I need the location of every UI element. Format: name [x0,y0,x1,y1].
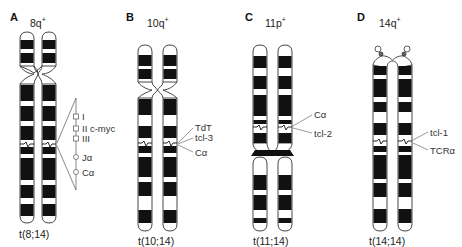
chromosome-d [373,46,428,231]
gene-label-a-4: Jα [82,153,92,163]
chromatid-b-left-lower [138,98,152,231]
leader-lines-c [293,115,312,133]
chromatid-d-right [398,65,412,231]
chromosome-title-b: 10q+ [147,16,169,28]
chromosome-title-c: 11p+ [265,16,286,28]
gene-label-c-1: Cα [314,110,326,120]
chromosome-title-sup: + [42,16,46,23]
gene-map-expansion [57,98,79,190]
chromatid-a-right-upper [42,32,56,66]
translocation-caption-a: t(8;14) [19,229,49,240]
chromosome-title-sup: + [165,16,169,23]
gene-label-a-5: Cα [82,168,94,178]
centromere-c [251,150,294,156]
chromatid-b-right-upper [163,45,177,82]
chromatid-d-left [373,65,387,231]
chromosome-b [138,45,193,231]
chromatid-b-left-upper [138,45,152,82]
gene-label-a-1: I [82,112,85,122]
gene-label-b-2: tcl-3 [195,133,213,143]
gene-label-b-3: Cα [195,148,207,158]
chromosome-title-text: 10q [147,17,165,29]
chromosome-title-text: 8q [30,17,42,29]
leader-lines-d [413,132,428,150]
satellites-d [375,46,410,56]
chromatid-a-right-lower [42,84,56,223]
panel-label-d: D [357,12,365,23]
chromatid-b-right-lower [163,98,177,231]
gene-label-d-2: TCRα [430,146,455,156]
chromatid-c-upper [253,45,292,153]
panel-label-a: A [10,12,18,23]
chromatid-a-left-lower [20,84,34,223]
chromosome-title-a: 8q+ [30,16,46,28]
chromosome-title-text: 11p [265,17,282,29]
gene-label-a-3: III [82,134,90,144]
panel-label-c: C [245,12,253,23]
chromosome-title-text: 14q [379,17,397,29]
gene-label-c-2: tcl-2 [314,129,332,139]
chromosome-title-sup: + [282,16,286,23]
chromatid-c-lower [253,157,292,231]
chromosome-title-d: 14q+ [379,16,401,28]
chromosome-title-sup: + [397,16,401,23]
leader-lines-b [178,128,193,152]
chromosome-c [251,45,312,231]
gene-label-d-1: tcl-1 [430,128,448,138]
translocation-caption-b: t(10;14) [138,236,174,247]
panel-label-b: B [126,12,134,23]
translocation-caption-d: t(14;14) [369,236,405,247]
chromatid-a-left-upper [20,32,34,66]
translocation-caption-c: t(11;14) [253,236,288,247]
chromosome-a [20,32,79,223]
